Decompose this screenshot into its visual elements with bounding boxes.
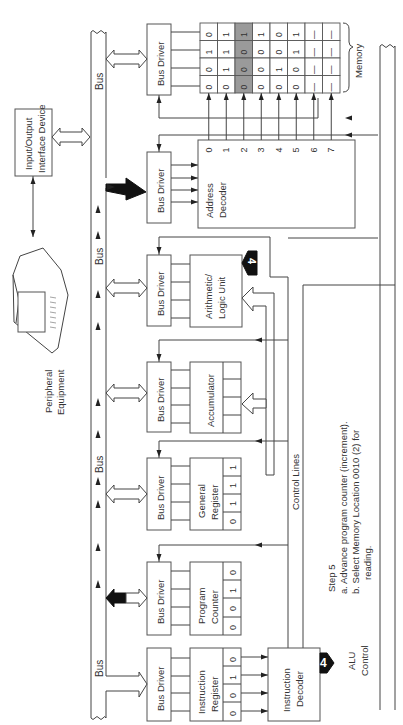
bus-driver-label: Bus Driver xyxy=(155,42,166,86)
memory-bit: 1 xyxy=(239,32,249,37)
memory-bit: 0 xyxy=(239,67,249,72)
gr-bit-1: 1 xyxy=(228,501,238,506)
step-item-a: a. Advance program counter (increment). xyxy=(338,421,349,594)
memory-bit: 0 xyxy=(204,85,214,90)
memory-bit: 1 xyxy=(274,67,284,72)
system-bus: Bus Bus Bus Bus xyxy=(91,31,106,720)
bus-label-1: Bus xyxy=(94,73,105,90)
memory-bit: 0 xyxy=(256,67,266,72)
memory-bit: 1 xyxy=(256,32,266,37)
alu-label-2: Logic Unit xyxy=(216,276,227,319)
bus-driver-label: Bus Driver xyxy=(155,169,166,213)
svg-text:4: 4 xyxy=(320,656,327,670)
bus-label-4: Bus xyxy=(94,660,105,677)
solid-arrow-program-counter xyxy=(106,589,126,607)
memory-bit: — xyxy=(309,83,319,92)
instruction-decoder-label-2: Decoder xyxy=(294,671,305,707)
bus-driver-label: Bus Driver xyxy=(155,272,166,316)
alu-control-label-2: Control xyxy=(359,645,370,676)
memory-bit: 0 xyxy=(291,85,301,90)
program-counter-label-1: Program xyxy=(196,587,207,624)
program-counter: Program Counter 0 0 1 0 xyxy=(190,562,241,635)
svg-text:4: 4 xyxy=(246,258,258,265)
memory-bit: 0 xyxy=(291,67,301,72)
memory-bit: 0 xyxy=(204,32,214,37)
memory-bit: — xyxy=(309,48,319,57)
memory-bit: 1 xyxy=(221,32,231,37)
step-notes: Step 5 a. Advance program counter (incre… xyxy=(326,421,373,594)
pc-bit-3: 0 xyxy=(228,570,238,575)
peripheral-equipment: Peripheral Equipment xyxy=(13,248,68,415)
address-decoder-label-1: Address xyxy=(204,183,215,218)
memory-bit: 0 xyxy=(274,32,284,37)
bus-driver-instruction-register: Bus Driver xyxy=(106,648,190,721)
terminal-icon xyxy=(13,248,68,353)
bus-driver-label: Bus Driver xyxy=(155,667,166,711)
general-register: General Register 0 1 1 1 xyxy=(190,458,241,530)
decoder-step-badge: 4 xyxy=(320,653,334,673)
memory-bit: 0 xyxy=(221,85,231,90)
memory-address-label: 7 xyxy=(326,147,336,152)
memory-bit: 0 xyxy=(274,50,284,55)
instruction-register-label-1: Instruction xyxy=(196,670,207,714)
memory-bit: — xyxy=(326,83,336,92)
io-label-2: Interface Device xyxy=(36,104,47,173)
instruction-register-label-2: Register xyxy=(209,677,220,712)
memory-address-label: 2 xyxy=(239,147,249,152)
memory-bit: 0 xyxy=(239,85,249,90)
memory-bit: 0 xyxy=(256,85,266,90)
instruction-register: Instruction Register 0 0 1 0 xyxy=(190,648,268,721)
peripheral-label-1: Peripheral xyxy=(43,370,54,413)
pc-bit-1: 0 xyxy=(228,606,238,611)
alu-label-1: Arithmetic/ xyxy=(203,274,214,319)
memory-bit: — xyxy=(326,30,336,39)
gr-bit-0: 0 xyxy=(228,519,238,524)
program-counter-label-2: Counter xyxy=(209,590,220,624)
accumulator-label: Accumulator xyxy=(205,374,216,427)
peripheral-label-2: Equipment xyxy=(55,369,66,415)
bus-label-3: Bus xyxy=(94,456,105,473)
ir-bit-2: 1 xyxy=(228,675,238,680)
memory-bit: — xyxy=(326,65,336,74)
io-interface-device: Input/Output Interface Device xyxy=(15,104,90,237)
gr-bit-2: 1 xyxy=(228,483,238,488)
instruction-decoder: Instruction Decoder 4 ALU Control xyxy=(268,645,370,721)
memory-bit: 1 xyxy=(221,50,231,55)
pc-bit-2: 1 xyxy=(228,588,238,593)
memory-address-label: 4 xyxy=(274,147,284,152)
memory-bit: 1 xyxy=(204,50,214,55)
gr-bit-3: 1 xyxy=(228,465,238,470)
general-register-label-1: General xyxy=(196,484,207,518)
memory-bit: 0 xyxy=(274,85,284,90)
return-bus xyxy=(380,45,395,711)
memory-brace xyxy=(343,23,353,92)
alu-step-badge: 4 xyxy=(242,251,258,275)
solid-arrow-address xyxy=(106,178,146,200)
bus-driver-label: Bus Driver xyxy=(155,378,166,422)
memory-bit: — xyxy=(309,65,319,74)
bus-driver-alu: Bus Driver xyxy=(106,237,270,326)
bus-label-2: Bus xyxy=(94,248,105,265)
memory-bit: 0 xyxy=(204,67,214,72)
memory-array: 010001110110002100030010411005————6————7 xyxy=(200,23,352,153)
pc-bit-0: 0 xyxy=(228,625,238,630)
memory-label: Memory xyxy=(353,43,364,78)
memory-address-label: 1 xyxy=(221,147,231,152)
memory-bit: 0 xyxy=(239,50,249,55)
io-bus-arrow xyxy=(52,128,90,146)
address-decoder-label-2: Decoder xyxy=(217,182,228,218)
memory-address-label: 5 xyxy=(291,147,301,152)
memory-bit: 1 xyxy=(291,32,301,37)
bus-driver-label: Bus Driver xyxy=(155,476,166,520)
memory-address-label: 0 xyxy=(204,147,214,152)
ir-bit-0: 0 xyxy=(228,711,238,716)
memory-address-label: 3 xyxy=(256,147,266,152)
memory-bit: — xyxy=(326,48,336,57)
control-lines-label: Control Lines xyxy=(290,454,301,510)
bus-driver-label: Bus Driver xyxy=(155,580,166,624)
io-label-1: Input/Output xyxy=(23,117,34,170)
cpu-step-diagram: Bus Bus Bus Bus Input/Output Interface D… xyxy=(0,0,403,725)
memory-bit: 1 xyxy=(291,50,301,55)
step-item-b-2: reading. xyxy=(362,546,373,580)
alu-control-label-1: ALU xyxy=(346,651,357,670)
